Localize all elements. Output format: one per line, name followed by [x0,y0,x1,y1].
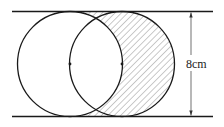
dimension-label: 8cm [186,57,207,71]
left-center-point [69,63,72,66]
right-center-point [121,63,124,66]
overlapping-circles-diagram: 8cm [0,0,224,127]
